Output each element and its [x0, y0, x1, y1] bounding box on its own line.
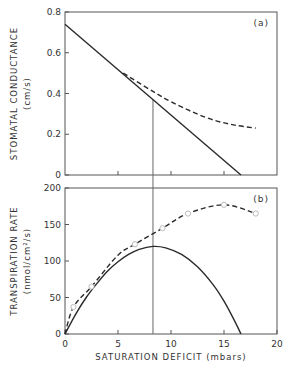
data-point-marker — [132, 242, 137, 247]
data-point-marker — [71, 304, 76, 309]
data-point-marker — [253, 211, 258, 216]
x-tick-label: 10 — [165, 339, 177, 349]
y-axis-units: (nmol/cm²/s) — [22, 228, 32, 294]
panel-tag: (a) — [253, 18, 269, 28]
y-tick-label: 50 — [50, 293, 62, 303]
data-point-marker — [89, 284, 94, 289]
plot-frame — [65, 188, 277, 334]
data-point-marker — [185, 211, 190, 216]
y-axis-label: STOMATAL CONDUCTANCE — [9, 27, 19, 160]
observed-curve — [123, 73, 256, 128]
y-axis-units: (cm/s) — [22, 77, 32, 110]
panel-tag: (b) — [253, 194, 269, 204]
y-tick-label: 200 — [44, 183, 61, 193]
x-tick-label: 0 — [62, 339, 68, 349]
y-axis-label: TRANSPIRATION RATE — [9, 206, 19, 316]
plot-frame — [65, 12, 277, 175]
y-tick-label: 100 — [44, 256, 61, 266]
data-point-marker — [160, 226, 165, 231]
y-tick-label: 0.2 — [47, 129, 61, 139]
y-tick-label: 0 — [55, 170, 61, 180]
y-tick-label: 150 — [44, 220, 61, 230]
y-tick-label: 0.6 — [47, 48, 62, 58]
x-axis-label: SATURATION DEFICIT (mbars) — [95, 352, 246, 362]
y-tick-label: 0.4 — [47, 89, 62, 99]
figure: 00.20.40.60.8(a)STOMATAL CONDUCTANCE(cm/… — [0, 0, 290, 370]
panel-b-transpiration-rate: 05010015020005101520(b)TRANSPIRATION RAT… — [9, 183, 283, 349]
y-tick-label: 0.8 — [47, 7, 62, 17]
x-tick-label: 20 — [271, 339, 283, 349]
observed-curve — [65, 205, 256, 334]
x-tick-label: 5 — [115, 339, 121, 349]
panel-a-stomatal-conductance: 00.20.40.60.8(a)STOMATAL CONDUCTANCE(cm/… — [9, 7, 277, 188]
data-point-marker — [221, 202, 226, 207]
x-tick-label: 15 — [218, 339, 229, 349]
y-tick-label: 0 — [55, 329, 61, 339]
